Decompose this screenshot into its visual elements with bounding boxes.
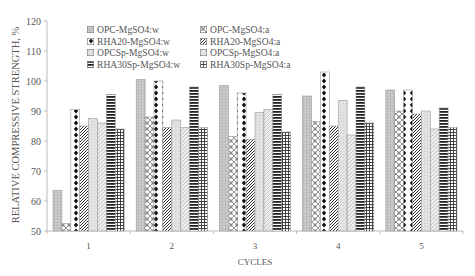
bar (448, 128, 457, 232)
bar (273, 95, 282, 232)
y-axis-label: RELATIVE COMPRESSIVE STRENGTH, % (10, 27, 21, 224)
legend-swatch-icon (87, 26, 94, 33)
bar (365, 123, 374, 231)
bar (80, 126, 89, 231)
legend-label: RHA20-MgSO4:a (210, 36, 280, 47)
bar (237, 93, 246, 231)
bar (347, 135, 356, 231)
x-axis-label: CYCLES (238, 257, 273, 267)
bars (53, 72, 457, 231)
y-tick-label: 60 (31, 196, 41, 207)
bar (439, 108, 448, 231)
bar (62, 224, 71, 232)
legend-item: OPCSp-MgSO4:a (200, 47, 320, 59)
bar (404, 90, 413, 231)
legend-item: RHA30Sp-MgSO4:a (200, 59, 320, 71)
bar (71, 110, 80, 232)
legend-item: OPC-MgSO4:a (200, 24, 320, 36)
y-tick-label: 80 (31, 136, 41, 147)
bar (190, 87, 199, 231)
bar (145, 117, 154, 231)
bar (154, 81, 163, 231)
legend-swatch-icon (87, 49, 94, 56)
bar (228, 137, 237, 232)
bar (303, 96, 312, 231)
legend-label: OPC-MgSO4:w (97, 24, 159, 35)
y-tick-label: 110 (26, 46, 41, 57)
legend-label: RHA30Sp-MgSO4:a (210, 59, 291, 70)
legend-item: RHA30Sp-MgSO4:w (87, 59, 200, 71)
bar (312, 122, 321, 232)
bar (421, 111, 430, 231)
y-tick-label: 90 (31, 106, 41, 117)
bar (89, 119, 98, 232)
x-tick-label: 4 (336, 241, 341, 251)
x-tick-label: 5 (419, 241, 424, 251)
bar (181, 128, 190, 232)
y-tick-label: 100 (26, 76, 41, 87)
bar (53, 191, 62, 232)
legend-swatch-icon (200, 38, 207, 45)
bar (338, 101, 347, 232)
bar (320, 72, 329, 231)
bar (115, 129, 124, 231)
x-tick-label: 2 (170, 241, 175, 251)
y-tick-label: 70 (31, 166, 41, 177)
bar (172, 120, 181, 231)
bar (356, 87, 365, 231)
bar (219, 86, 228, 232)
bar (413, 114, 422, 231)
legend-swatch-icon (87, 61, 94, 68)
legend-item: RHA20-MgSO4:a (200, 36, 320, 48)
bar (255, 113, 264, 232)
legend-item: OPC-MgSO4:w (87, 24, 200, 36)
bar (430, 129, 439, 231)
legend-label: OPCSp-MgSO4:a (210, 47, 279, 58)
bar (106, 95, 115, 232)
bar (98, 123, 107, 231)
bar (329, 126, 338, 231)
bar (136, 80, 145, 232)
legend-label: OPCSp-MgSO4:w (97, 47, 169, 58)
legend: OPC-MgSO4:wOPC-MgSO4:aRHA20-MgSO4:wRHA20… (87, 24, 320, 70)
bar (386, 90, 395, 231)
bar (282, 132, 291, 231)
legend-item: RHA20-MgSO4:w (87, 36, 200, 48)
legend-swatch-icon (87, 38, 94, 45)
legend-swatch-icon (200, 26, 207, 33)
y-tick-label: 120 (26, 16, 41, 27)
legend-label: OPC-MgSO4:a (210, 24, 269, 35)
x-tick-label: 3 (253, 241, 258, 251)
bar (163, 128, 172, 232)
x-tick-label: 1 (86, 241, 91, 251)
bar (199, 128, 208, 232)
bar (395, 111, 404, 231)
y-tick-label: 50 (31, 226, 41, 237)
legend-label: RHA20-MgSO4:w (97, 36, 170, 47)
legend-swatch-icon (200, 61, 207, 68)
legend-item: OPCSp-MgSO4:w (87, 47, 200, 59)
legend-swatch-icon (200, 49, 207, 56)
legend-label: RHA30Sp-MgSO4:w (97, 59, 180, 70)
bar (246, 140, 255, 232)
bar (264, 110, 273, 232)
